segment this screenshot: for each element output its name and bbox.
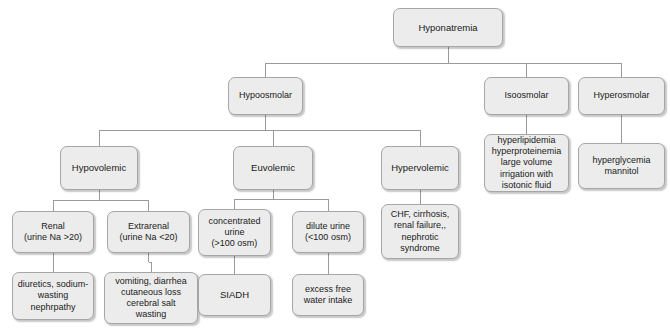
node-renal: Renal (urine Na >20) [12, 211, 94, 253]
node-siadh: SIADH [198, 274, 271, 316]
node-renal-causes: diuretics, sodium- wasting nephrpathy [12, 272, 94, 320]
node-hypovolemic: Hypovolemic [60, 146, 138, 190]
node-hypervolemic-causes: CHF, cirrhosis, renal failure,, nephroti… [381, 204, 459, 259]
node-isoosmolar: Isoosmolar [484, 77, 569, 115]
node-concentrated-urine: concentrated urine (>100 osm) [198, 209, 271, 256]
node-extrarenal: Extrarenal (urine Na <20) [107, 211, 190, 253]
node-isoosmolar-causes: hyperlipidemia hyperproteinemia large vo… [484, 134, 569, 192]
node-hypoosmolar: Hypoosmolar [228, 77, 303, 115]
node-extrarenal-causes: vomiting, diarrhea cutaneous loss cerebr… [104, 272, 198, 324]
flowchart-canvas: HyponatremiaHypoosmolarIsoosmolarHyperos… [0, 0, 670, 336]
node-hyperosmolar-causes: hyperglycemia mannitol [578, 143, 665, 189]
node-hyponatremia: Hyponatremia [393, 8, 503, 47]
node-dilute-urine: dilute urine (<100 osm) [292, 211, 364, 253]
node-excess-water: excess free water intake [292, 274, 364, 316]
node-euvolemic: Euvolemic [233, 146, 313, 190]
node-hyperosmolar: Hyperosmolar [578, 77, 665, 115]
node-hypervolemic: Hypervolemic [381, 146, 459, 190]
